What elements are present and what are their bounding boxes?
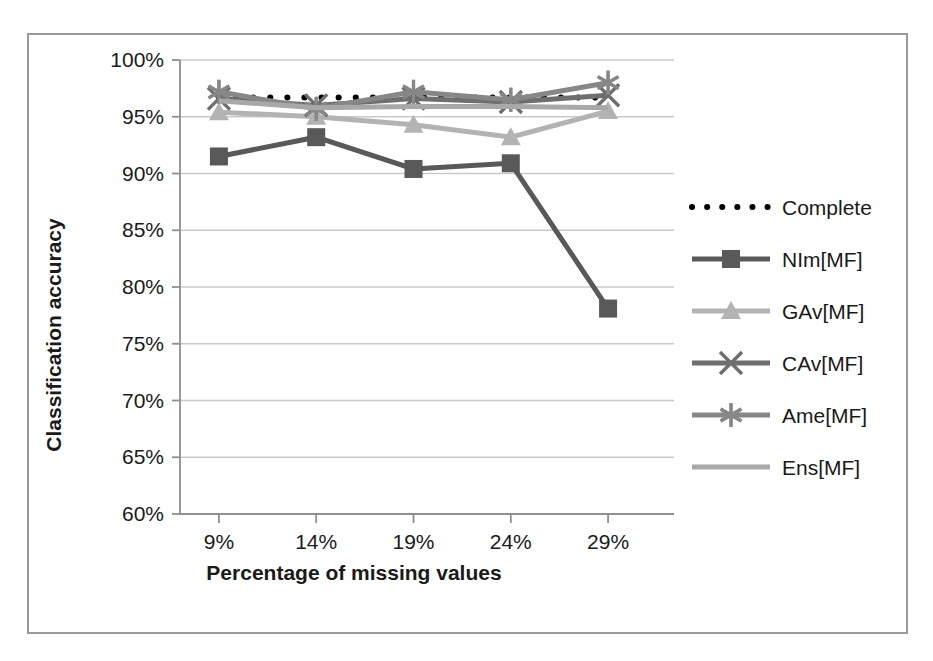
x-tick-marks-group	[219, 514, 608, 523]
chart-figure: 60%65%70%75%80%85%90%95%100% 9%14%19%24%…	[27, 33, 908, 634]
legend-item-cavmf[interactable]: CAv[MF]	[692, 352, 863, 375]
x-tick-label: 9%	[204, 530, 234, 553]
x-tick-labels-group: 9%14%19%24%29%	[204, 530, 629, 553]
x-axis-title: Percentage of missing values	[206, 561, 501, 584]
line-chart-svg: 60%65%70%75%80%85%90%95%100% 9%14%19%24%…	[29, 35, 910, 636]
y-tick-label: 100%	[110, 48, 164, 71]
x-tick-label: 29%	[587, 530, 629, 553]
data-point-marker-square	[599, 300, 617, 318]
data-point-marker-square	[502, 154, 520, 172]
y-tick-label: 75%	[122, 332, 164, 355]
data-point-marker-square	[307, 128, 325, 146]
x-tick-label: 24%	[490, 530, 532, 553]
data-point-marker-square	[722, 250, 740, 268]
legend-item-nimmf[interactable]: NIm[MF]	[692, 248, 862, 271]
legend-item-gavmf[interactable]: GAv[MF]	[692, 300, 864, 323]
series-nimmf	[210, 128, 617, 317]
legend-label: GAv[MF]	[782, 300, 864, 323]
data-point-marker-square	[210, 147, 228, 165]
y-tick-label: 60%	[122, 502, 164, 525]
legend-label: CAv[MF]	[782, 352, 863, 375]
x-tick-label: 14%	[295, 530, 337, 553]
y-tick-label: 70%	[122, 389, 164, 412]
y-axis-title: Classification accuracy	[42, 218, 65, 452]
legend-label: Ens[MF]	[782, 456, 860, 479]
y-tick-label: 80%	[122, 275, 164, 298]
data-point-marker-square	[405, 160, 423, 178]
legend-label: Ame[MF]	[782, 404, 867, 427]
chart-legend: CompleteNIm[MF]GAv[MF]CAv[MF]Ame[MF]Ens[…	[692, 196, 872, 479]
legend-label: Complete	[782, 196, 872, 219]
y-tick-label: 85%	[122, 218, 164, 241]
data-series-group	[208, 71, 619, 318]
y-tick-label: 90%	[122, 162, 164, 185]
x-tick-label: 19%	[392, 530, 434, 553]
legend-item-complete[interactable]: Complete	[692, 196, 872, 219]
y-tick-label: 65%	[122, 445, 164, 468]
y-tick-label: 95%	[122, 105, 164, 128]
legend-item-ensmf[interactable]: Ens[MF]	[692, 456, 860, 479]
legend-label: NIm[MF]	[782, 248, 862, 271]
y-tick-labels-group: 60%65%70%75%80%85%90%95%100%	[110, 48, 164, 525]
legend-item-amemf[interactable]: Ame[MF]	[692, 403, 867, 427]
chart-plot-container: 60%65%70%75%80%85%90%95%100% 9%14%19%24%…	[29, 35, 910, 636]
y-tick-marks-group	[172, 60, 180, 514]
